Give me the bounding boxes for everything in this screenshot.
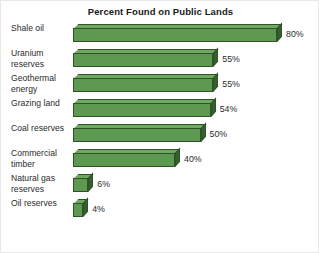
bar-value-label: 55% bbox=[222, 54, 240, 64]
chart-title: Percent Found on Public Lands bbox=[1, 6, 319, 17]
bar-front-face bbox=[73, 78, 213, 92]
bar-row: Coal reserves50% bbox=[1, 123, 319, 148]
bar-front-face bbox=[73, 128, 201, 142]
chart-container: Percent Found on Public Lands Shale oil8… bbox=[0, 0, 319, 253]
bar-value-label: 6% bbox=[97, 179, 110, 189]
bar-category-label: Shale oil bbox=[11, 23, 73, 34]
bar-front-face bbox=[73, 53, 213, 67]
bar bbox=[73, 49, 213, 65]
bar-row: Grazing land54% bbox=[1, 98, 319, 123]
bar-value-label: 50% bbox=[210, 129, 228, 139]
bar-side-face bbox=[213, 47, 218, 67]
bar-row: Geothermal energy55% bbox=[1, 73, 319, 98]
bar-side-face bbox=[175, 147, 180, 167]
bar-value-label: 80% bbox=[286, 29, 304, 39]
bar-front-face bbox=[73, 28, 277, 42]
bar bbox=[73, 149, 175, 165]
bar bbox=[73, 99, 211, 115]
bar-category-label: Grazing land bbox=[11, 98, 73, 109]
bar-value-label: 4% bbox=[92, 204, 105, 214]
bar-row: Commercial timber40% bbox=[1, 148, 319, 173]
bar-row: Shale oil80% bbox=[1, 23, 319, 48]
bar bbox=[73, 199, 83, 215]
bar-row: Oil reserves4% bbox=[1, 198, 319, 223]
bar-value-label: 40% bbox=[184, 154, 202, 164]
bar bbox=[73, 124, 201, 140]
chart-plot-area: Shale oil80%Uranium reserves55%Geotherma… bbox=[1, 23, 319, 238]
bar-front-face bbox=[73, 178, 88, 192]
bar-category-label: Coal reserves bbox=[11, 123, 73, 134]
bar bbox=[73, 24, 277, 40]
bar-front-face bbox=[73, 153, 175, 167]
bar-front-face bbox=[73, 103, 211, 117]
bar-value-label: 55% bbox=[222, 79, 240, 89]
bar-category-label: Oil reserves bbox=[11, 198, 73, 209]
bar-side-face bbox=[277, 22, 282, 42]
bar-category-label: Uranium reserves bbox=[11, 48, 73, 69]
bar-category-label: Natural gas reserves bbox=[11, 173, 73, 194]
bar-side-face bbox=[88, 172, 93, 192]
bar-value-label: 54% bbox=[220, 104, 238, 114]
bar-row: Natural gas reserves6% bbox=[1, 173, 319, 198]
bar bbox=[73, 74, 213, 90]
bar-side-face bbox=[83, 197, 88, 217]
bar bbox=[73, 174, 88, 190]
bar-category-label: Commercial timber bbox=[11, 148, 73, 169]
bar-side-face bbox=[213, 72, 218, 92]
bar-category-label: Geothermal energy bbox=[11, 73, 73, 94]
bar-front-face bbox=[73, 203, 83, 217]
bar-row: Uranium reserves55% bbox=[1, 48, 319, 73]
